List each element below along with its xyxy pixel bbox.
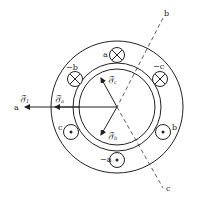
conductor-neg-c <box>153 72 168 87</box>
conductor-neg-a <box>110 153 125 168</box>
fc-label: 𝔉c <box>108 74 117 85</box>
conductor-neg-c-label: −c <box>153 62 165 71</box>
axis-b-label: b <box>164 9 169 18</box>
conductor-c-label: c <box>58 123 63 132</box>
axis-c-label: c <box>166 184 171 193</box>
total-mmf-label: 𝔉1 <box>20 93 29 104</box>
conductor-neg-b-label: −b <box>66 63 78 72</box>
fa-label: 𝔉a <box>55 93 64 104</box>
axis-a-label: a <box>14 103 19 112</box>
axis-c-line <box>117 107 163 188</box>
fb-label: 𝔉b <box>108 130 117 141</box>
conductor-b-label: b <box>172 123 177 132</box>
conductor-a-label: a <box>103 50 108 59</box>
conductor-neg-a-label: −a <box>100 155 112 164</box>
conductor-b <box>156 125 171 140</box>
conductor-a <box>110 48 125 63</box>
mmf-diagram: a b c a −b −c c b −a 𝔉1 𝔉a 𝔉c 𝔉b <box>0 0 200 201</box>
conductor-neg-b <box>68 72 83 87</box>
conductor-c <box>64 125 79 140</box>
